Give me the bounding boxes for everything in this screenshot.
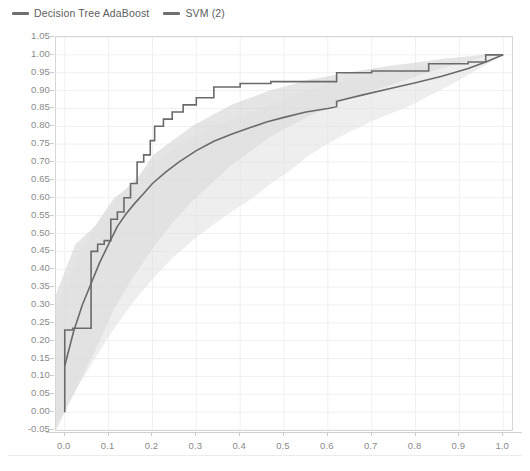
x-axis-tick-mark bbox=[502, 432, 503, 436]
roc-curve-chart: 1.051.000.950.900.850.800.750.700.650.60… bbox=[0, 0, 530, 471]
x-axis-tick-label: 0.0 bbox=[44, 440, 84, 451]
x-axis-tick-mark bbox=[239, 432, 240, 436]
x-axis-tick-label: 0.6 bbox=[307, 440, 347, 451]
x-axis-tick-label: 0.8 bbox=[395, 440, 435, 451]
x-axis-tick-mark bbox=[195, 432, 196, 436]
bottom-divider bbox=[8, 455, 522, 456]
x-axis-tick-label: 0.5 bbox=[263, 440, 303, 451]
x-axis-tick-label: 0.7 bbox=[351, 440, 391, 451]
x-axis-tick-label: 1.0 bbox=[482, 440, 522, 451]
x-axis-tick-mark bbox=[327, 432, 328, 436]
x-axis-tick-label: 0.1 bbox=[88, 440, 128, 451]
x-axis-tick-mark bbox=[151, 432, 152, 436]
x-axis-tick-mark bbox=[371, 432, 372, 436]
x-axis-tick-label: 0.9 bbox=[438, 440, 478, 451]
x-axis-tick-mark bbox=[458, 432, 459, 436]
x-axis-tick-label: 0.3 bbox=[175, 440, 215, 451]
x-axis-tick-label: 0.2 bbox=[131, 440, 171, 451]
x-axis-tick-mark bbox=[64, 432, 65, 436]
x-axis: 0.00.10.20.30.40.50.60.70.80.91.0 bbox=[0, 0, 530, 471]
x-axis-tick-mark bbox=[108, 432, 109, 436]
x-axis-tick-label: 0.4 bbox=[219, 440, 259, 451]
x-axis-tick-mark bbox=[283, 432, 284, 436]
x-axis-tick-mark bbox=[415, 432, 416, 436]
